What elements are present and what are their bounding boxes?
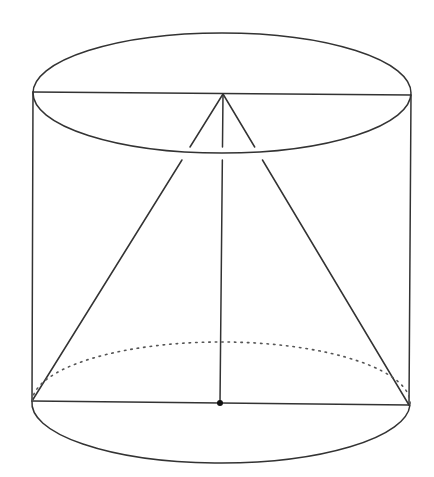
- cone-height-axis-lower: [220, 160, 222, 403]
- base-center-point: [217, 400, 223, 406]
- cone-height-axis-upper: [222, 94, 223, 147]
- cylinder-bottom-front-arc: [32, 401, 410, 463]
- cone-right-slant-upper: [223, 94, 255, 147]
- cylinder-left-side: [32, 92, 33, 401]
- cone-right-slant-lower: [262, 160, 409, 405]
- cone-left-slant-lower: [32, 160, 182, 401]
- cone-left-slant-upper: [190, 94, 223, 147]
- cylinder-right-side: [409, 95, 411, 405]
- cone-in-cylinder-diagram: [0, 0, 434, 477]
